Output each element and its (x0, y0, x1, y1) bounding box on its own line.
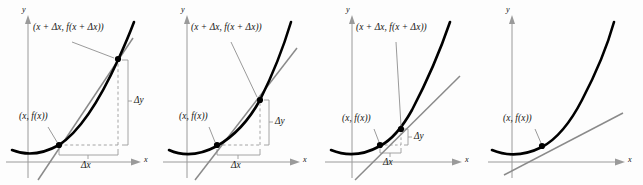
secant-line (195, 48, 297, 180)
lower-point-leader-line (374, 129, 379, 142)
delta-y-bracket (122, 60, 132, 145)
delta-y-label: Δy (275, 117, 285, 126)
upper-point-dot (398, 126, 404, 132)
tangency-point-dot (539, 143, 545, 149)
x-axis-label: x (144, 156, 148, 164)
y-axis-label: y (346, 6, 350, 14)
x-axis-label: x (465, 156, 469, 164)
y-axis-label: y (506, 6, 510, 14)
y-axis-label: y (181, 6, 185, 14)
parabola-curve (492, 22, 614, 154)
lower-point-dot (56, 142, 62, 148)
secant-line (355, 76, 460, 180)
delta-x-bracket (217, 149, 260, 159)
x-axis-label: x (628, 156, 632, 164)
upper-point-label: (x + Δx, f(x + Δx)) (191, 23, 262, 32)
lower-point-leader-line (535, 129, 541, 143)
x-axis-arrow-icon (290, 159, 300, 166)
x-axis-arrow-icon (615, 159, 625, 166)
panel-secant-large-delta: y x (x + Δx, f(x + Δx)) (x, f(x)) Δy Δx (0, 0, 157, 185)
upper-point-dot (115, 56, 121, 62)
upper-point-leader-line (231, 42, 257, 97)
secant-to-tangent-figure: y x (x + Δx, f(x + Δx)) (x, f(x)) Δy Δx (0, 0, 643, 185)
parabola-curve (331, 22, 450, 154)
y-axis-arrow-icon (25, 15, 31, 24)
delta-x-label: Δx (231, 161, 241, 170)
y-axis-arrow-icon (509, 15, 515, 24)
upper-point-dot (257, 97, 263, 103)
parabola-curve (12, 22, 134, 154)
y-axis-arrow-icon (184, 15, 190, 24)
panel-secant-medium-delta: y x (x + Δx, f(x + Δx)) (x, f(x)) Δy Δx (157, 0, 317, 185)
delta-x-label: Δx (81, 161, 91, 170)
y-axis-arrow-icon (349, 15, 355, 24)
delta-y-bracket (404, 129, 412, 145)
y-axis-label: y (22, 6, 26, 14)
lower-point-leader-line (209, 127, 215, 142)
upper-point-label: (x + Δx, f(x + Δx)) (356, 23, 427, 32)
delta-y-bracket (264, 100, 273, 145)
upper-point-leader-line (396, 42, 401, 126)
lower-point-label: (x, f(x)) (179, 112, 208, 121)
panel-tangent-limit: y x (x, f(x)) (480, 0, 643, 185)
upper-point-label: (x + Δx, f(x + Δx)) (33, 23, 104, 32)
delta-x-bracket (59, 149, 118, 159)
lower-point-dot (214, 142, 220, 148)
panel-4-canvas (480, 0, 643, 185)
delta-y-label: Δy (414, 132, 424, 141)
lower-point-label: (x, f(x)) (342, 114, 371, 123)
lower-point-label: (x, f(x)) (19, 112, 48, 121)
lower-point-dot (377, 142, 383, 148)
upper-point-leader-line (72, 42, 114, 58)
x-axis-label: x (303, 156, 307, 164)
delta-y-label: Δy (134, 96, 144, 105)
x-axis-arrow-icon (131, 159, 141, 166)
lower-point-label: (x, f(x)) (503, 114, 532, 123)
lower-point-leader-line (48, 127, 57, 142)
panel-secant-small-delta: y x (x + Δx, f(x + Δx)) (x, f(x)) Δy Δx (317, 0, 480, 185)
x-axis-arrow-icon (452, 159, 462, 166)
delta-x-label: Δx (383, 158, 393, 167)
